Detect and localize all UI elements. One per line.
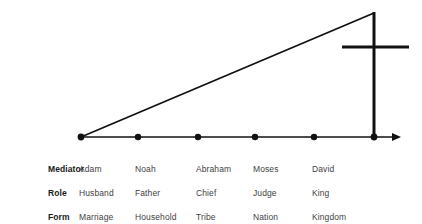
cell-role-king: King — [312, 176, 422, 200]
cell-form-nation: Nation — [253, 200, 312, 224]
cell-form-kingdom: Kingdom — [312, 200, 422, 224]
point-david — [311, 134, 317, 140]
point-noah — [135, 134, 141, 140]
point-moses — [252, 134, 258, 140]
cell-form-marriage: Marriage — [79, 200, 135, 224]
timeline-diagram — [0, 0, 422, 152]
row-label-form: Form — [0, 200, 79, 224]
table-row-role: Role Husband Father Chief Judge King — [0, 176, 422, 200]
point-abraham — [195, 134, 201, 140]
cell-role-father: Father — [135, 176, 196, 200]
cell-mediator-abraham: Abraham — [196, 152, 253, 176]
legend-table: Mediator Adam Noah Abraham Moses David R… — [0, 152, 422, 224]
figure-root: Mediator Adam Noah Abraham Moses David R… — [0, 0, 422, 224]
cell-mediator-noah: Noah — [135, 152, 196, 176]
cell-mediator-adam: Adam — [79, 152, 135, 176]
point-adam — [78, 134, 85, 141]
row-label-mediator: Mediator — [0, 152, 79, 176]
ascending-line — [81, 13, 374, 137]
axis-arrowhead — [392, 133, 401, 141]
cell-form-household: Household — [135, 200, 196, 224]
table-row-form: Form Marriage Household Tribe Nation Kin… — [0, 200, 422, 224]
cell-role-chief: Chief — [196, 176, 253, 200]
cell-mediator-moses: Moses — [253, 152, 312, 176]
cell-form-tribe: Tribe — [196, 200, 253, 224]
cell-mediator-david: David — [312, 152, 422, 176]
cell-role-judge: Judge — [253, 176, 312, 200]
row-label-role: Role — [0, 176, 79, 200]
table-row-mediator: Mediator Adam Noah Abraham Moses David — [0, 152, 422, 176]
point-cross — [371, 134, 378, 141]
cell-role-husband: Husband — [79, 176, 135, 200]
